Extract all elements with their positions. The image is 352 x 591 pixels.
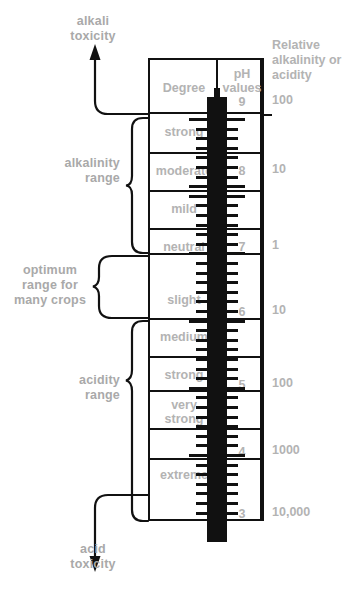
relative-value-10-alkaline: 10 [272,162,350,176]
tick-mark [196,483,207,486]
tick-mark [227,252,245,255]
alkali-toxicity-label: alkali toxicity [38,14,148,44]
tick-mark [196,128,207,131]
column-header-relative: Relative alkalinity or acidity [272,38,350,83]
tick-mark [196,329,207,332]
tick-mark [196,473,207,476]
alkali-toxicity-arrow [90,44,149,114]
tick-mark [227,473,238,476]
tick-mark [227,329,238,332]
tick-mark [189,454,207,457]
tick-mark [196,425,207,428]
tick-mark [196,416,207,419]
tick-mark [196,492,207,495]
relative-value-1-neutral: 1 [272,238,350,252]
tick-mark [227,300,238,303]
tick-mark [196,368,207,371]
tick-mark [227,339,238,342]
tick-mark [189,387,207,390]
tick-mark [227,396,238,399]
tick-mark [196,377,207,380]
tick-mark [196,300,207,303]
tick-mark [227,454,245,457]
alkalinity-range-brace [126,118,148,253]
column-header-ph-values: pH values [220,67,264,95]
tick-mark [227,176,238,179]
tick-mark [227,262,238,265]
tick-mark [227,425,238,428]
tick-mark [227,435,238,438]
tick-mark [227,128,238,131]
tick-mark [227,272,238,275]
tick-mark [227,243,238,246]
tick-mark [227,224,238,227]
tick-mark [227,166,238,169]
tick-mark [227,512,238,515]
tick-mark [196,435,207,438]
tick-mark [227,214,238,217]
tick-mark [227,368,238,371]
tick-mark [196,137,207,140]
tick-mark [196,502,207,505]
tick-mark [196,243,207,246]
acid-toxicity-label: acid toxicity [38,542,148,572]
tick-mark [227,444,238,447]
tick-mark [196,262,207,265]
tick-mark [196,156,207,159]
tick-mark [227,502,238,505]
tick-mark [196,176,207,179]
tick-mark [227,387,245,390]
tick-mark [227,185,245,188]
tick-mark [196,406,207,409]
ph-scale-diagram: Degree pH values 9 strong moderate mild … [0,0,352,591]
table-right-edge [262,58,264,521]
tick-mark [227,406,238,409]
relative-value-10-acid: 10 [272,303,350,317]
tick-mark [196,310,207,313]
relative-value-10000-acid: 10,000 [272,505,350,519]
tick-mark [227,233,238,236]
tick-mark [227,320,245,323]
tick-mark [196,166,207,169]
tick-mark [196,233,207,236]
tick-mark [196,204,207,207]
tick-mark [196,147,207,150]
tick-mark [196,444,207,447]
acidity-range-label: acidity range [20,373,120,403]
tick-mark [196,214,207,217]
tick-mark [227,281,238,284]
tick-mark [227,137,238,140]
tick-mark [227,156,238,159]
tick-mark [227,464,238,467]
tick-mark [189,252,207,255]
tick-mark [227,310,238,313]
relative-value-100-alkaline: 100 [272,93,350,107]
tick-mark [227,348,238,351]
relative-value-100-acid: 100 [272,376,350,390]
tick-mark [196,291,207,294]
tick-mark [196,396,207,399]
optimum-range-label: optimum range for many crops [6,263,94,308]
optimum-range-brace [93,256,148,318]
tick-mark [196,464,207,467]
tick-mark [227,147,238,150]
tick-mark [227,492,238,495]
tick-mark [227,377,238,380]
acidity-range-brace [126,321,148,521]
tick-rule-9 [262,114,272,116]
tick-mark [227,204,238,207]
tick-mark [189,195,207,198]
tick-mark [196,272,207,275]
tick-mark [196,358,207,361]
tick-mark [196,512,207,515]
tick-mark [227,483,238,486]
tick-mark [196,348,207,351]
thermometer-mercury-bar [207,97,227,542]
tick-mark [196,281,207,284]
tick-mark [227,416,238,419]
tick-mark [189,118,207,121]
tick-mark [189,320,207,323]
tick-mark [227,118,245,121]
tick-mark [227,291,238,294]
column-header-degree: Degree [150,81,218,95]
